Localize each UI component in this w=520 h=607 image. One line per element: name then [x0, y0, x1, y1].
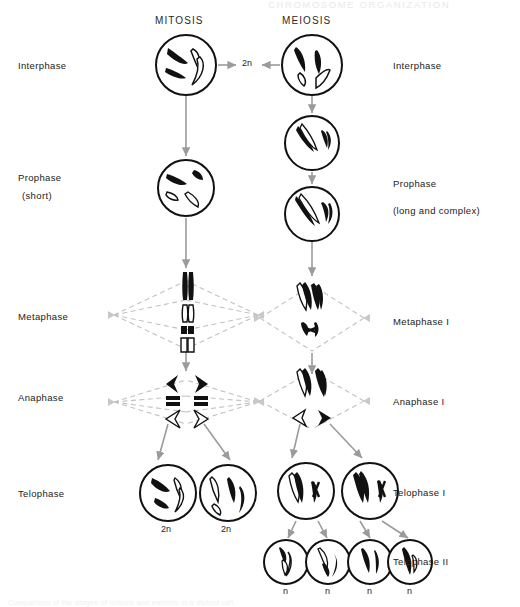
chromosomes-meiosis-metaphase1: [297, 282, 323, 337]
cell-mitosis-telophase-right: [200, 465, 256, 521]
label-left-telophase: Telophase: [18, 488, 64, 499]
figure-caption: Comparison of the stages of mitosis and …: [8, 598, 236, 607]
label-left-metaphase: Metaphase: [18, 311, 68, 322]
ploidy-telophase2-d: n: [407, 586, 412, 596]
cell-meiosis-telophase2-b: [306, 540, 350, 584]
cell-mitosis-telophase-left: [140, 465, 196, 521]
cell-meiosis-interphase: [282, 35, 342, 95]
ploidy-mitosis-telophase-right: 2n: [221, 524, 231, 534]
chromosomes-meiosis-anaphase1: [293, 368, 331, 426]
cell-meiosis-prophase-condensed: [285, 187, 339, 241]
ploidy-telophase2-c: n: [367, 586, 372, 596]
label-left-prophase: Prophase: [18, 172, 61, 183]
cell-meiosis-telophase1-left: [278, 463, 334, 519]
label-right-interphase: Interphase: [393, 60, 441, 71]
label-right-metaphase-1: Metaphase I: [393, 316, 449, 327]
label-right-telophase-2: Telophase II: [393, 556, 448, 567]
ploidy-telophase2-b: n: [325, 586, 330, 596]
label-left-prophase-note: (short): [22, 190, 52, 201]
chromosomes-mitosis-anaphase: [166, 375, 208, 428]
ploidy-mitosis-telophase-left: 2n: [161, 524, 171, 534]
cell-mitosis-prophase: [158, 160, 214, 216]
cell-mitosis-interphase: [156, 35, 216, 95]
label-right-telophase-1: Telophase I: [393, 487, 445, 498]
label-right-prophase: Prophase: [393, 178, 436, 189]
label-right-anaphase-1: Anaphase I: [393, 396, 445, 407]
cell-meiosis-telophase2-c: [348, 540, 392, 584]
ploidy-interphase-link: 2n: [242, 58, 252, 68]
label-right-prophase-note: (long and complex): [393, 205, 480, 216]
cell-meiosis-prophase-pairing: [285, 116, 339, 170]
spindle-fibers-group: [114, 281, 364, 429]
cell-meiosis-telophase2-a: [264, 540, 308, 584]
label-left-anaphase: Anaphase: [18, 392, 64, 403]
cell-meiosis-telophase1-right: [342, 463, 398, 519]
label-left-interphase: Interphase: [18, 60, 66, 71]
ploidy-telophase2-a: n: [283, 586, 288, 596]
chromosomes-mitosis-metaphase: [181, 272, 194, 352]
